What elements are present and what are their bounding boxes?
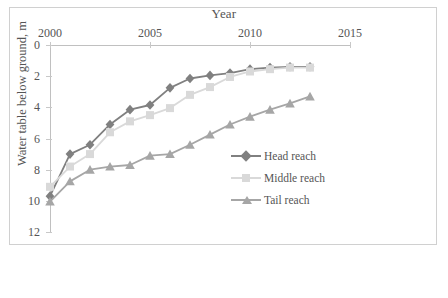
legend-label: Tail reach (264, 194, 309, 206)
data-point-marker (306, 64, 314, 72)
data-point-marker (186, 74, 195, 84)
y-axis-tick-label: 4 (34, 100, 40, 115)
data-point-marker (185, 140, 195, 149)
data-point-marker (146, 111, 154, 119)
data-point-marker (106, 128, 114, 136)
chart-figure: Year Water table below ground, m 2000200… (0, 0, 448, 298)
legend-square-icon (242, 174, 250, 182)
x-axis-tick-label: 2000 (38, 26, 62, 41)
data-point-marker (266, 65, 274, 73)
legend-label: Head reach (264, 150, 316, 162)
y-axis-label: Water table below ground, m (15, 4, 30, 184)
chart-title: Year (0, 6, 448, 22)
data-point-marker (206, 83, 214, 91)
data-point-marker (246, 67, 254, 75)
data-point-marker (46, 183, 54, 191)
data-point-marker (66, 163, 74, 171)
y-axis-tick-label: 6 (34, 131, 40, 146)
data-point-marker (186, 91, 194, 99)
legend-item-middle-reach[interactable]: Middle reach (231, 167, 325, 189)
y-axis-tick-label: 2 (34, 69, 40, 84)
y-axis-tick (46, 232, 52, 233)
data-point-marker (205, 130, 215, 139)
data-point-marker (225, 120, 235, 129)
x-axis-tick (350, 42, 351, 48)
x-axis-tick-label: 2015 (338, 26, 362, 41)
data-point-marker (226, 73, 234, 81)
legend-item-head-reach[interactable]: Head reach (231, 145, 325, 167)
y-axis-tick-label: 0 (34, 38, 40, 53)
data-point-marker (66, 149, 75, 159)
legend-label: Middle reach (264, 172, 325, 184)
data-point-marker (126, 117, 134, 125)
legend-item-tail-reach[interactable]: Tail reach (231, 189, 325, 211)
data-point-marker (166, 104, 174, 112)
data-point-marker (286, 64, 294, 72)
chart-legend: Head reachMiddle reachTail reach (231, 145, 325, 211)
data-point-marker (86, 150, 94, 158)
data-point-marker (206, 71, 215, 81)
data-point-marker (305, 92, 315, 101)
x-axis-tick-label: 2005 (138, 26, 162, 41)
legend-diamond-icon (240, 150, 251, 161)
legend-swatch (231, 172, 261, 184)
legend-swatch (231, 150, 261, 162)
y-axis-tick-label: 8 (34, 162, 40, 177)
data-point-marker (65, 177, 75, 186)
legend-triangle-icon (242, 196, 252, 204)
x-axis-tick-label: 2010 (238, 26, 262, 41)
y-axis-tick-label: 10 (28, 193, 40, 208)
y-axis-tick-label: 12 (28, 225, 40, 240)
legend-swatch (231, 194, 261, 206)
